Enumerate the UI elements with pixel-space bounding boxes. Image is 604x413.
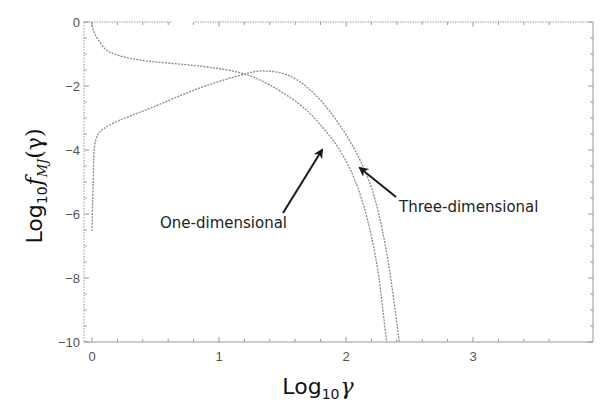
chart: 0123 0−2−4−6−8−10 One-dimensional Three-…	[0, 0, 604, 413]
y-tick-label: −2	[65, 79, 80, 94]
x-tick-label: 0	[88, 349, 95, 364]
y-tick-label: −6	[65, 207, 80, 222]
curve-one-dimensional	[92, 22, 387, 342]
axis-ticks	[84, 22, 593, 342]
x-tick-label: 2	[342, 349, 349, 364]
x-tick-label: 3	[469, 349, 476, 364]
label-three-dimensional: Three-dimensional	[398, 198, 538, 216]
x-tick-label: 1	[215, 349, 222, 364]
plot-frame	[84, 22, 593, 342]
curve-three-dimensional	[92, 71, 399, 342]
y-tick-label: −8	[65, 271, 80, 286]
y-tick-labels: 0−2−4−6−8−10	[58, 15, 80, 350]
y-axis-title: Log10fMJ(γ)	[22, 128, 50, 243]
x-axis-title: Log10γ	[282, 374, 354, 402]
y-tick-label: −10	[58, 335, 80, 350]
curves	[92, 22, 399, 342]
arrow-three-dimensional-icon	[360, 168, 396, 197]
annotation-one-dimensional: One-dimensional	[160, 150, 322, 232]
annotation-three-dimensional: Three-dimensional	[360, 168, 538, 216]
label-one-dimensional: One-dimensional	[160, 214, 287, 232]
y-tick-label: 0	[73, 15, 80, 30]
x-tick-labels: 0123	[88, 349, 476, 364]
arrow-one-dimensional-icon	[283, 150, 322, 213]
y-tick-label: −4	[65, 143, 80, 158]
